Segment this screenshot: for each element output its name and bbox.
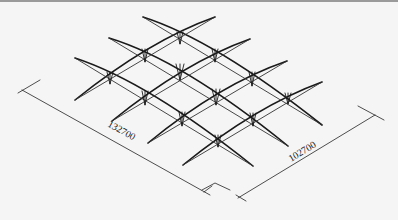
dimension-label-length: 132700	[106, 118, 138, 142]
dimension-lines	[18, 80, 384, 201]
structure-drawing: 132700 102700	[0, 0, 398, 220]
dimension-line-width	[238, 115, 375, 198]
drawing-canvas: 132700 102700	[0, 0, 398, 220]
dimension-line-length	[22, 90, 210, 195]
dimension-label-width: 102700	[286, 139, 317, 164]
lower-grid	[75, 17, 322, 166]
